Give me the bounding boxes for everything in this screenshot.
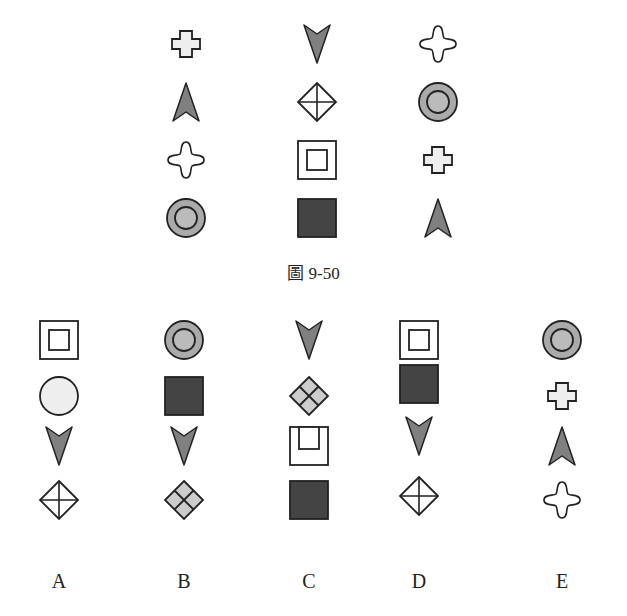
figure-col2-arrow-down-icon — [295, 22, 339, 66]
option-label-a[interactable]: A — [39, 570, 79, 593]
option-e-cross-icon — [540, 374, 584, 418]
option-c-arrow-down-icon — [287, 318, 331, 362]
figure-col3-four-point-star-icon — [416, 22, 460, 66]
option-label-c[interactable]: C — [289, 570, 329, 593]
option-e-four-point-star-icon — [540, 478, 584, 522]
figure-col1-arrow-up-icon — [164, 80, 208, 124]
option-label-d[interactable]: D — [399, 570, 439, 593]
option-d-arrow-down-icon — [397, 414, 441, 458]
option-d-dark-square-icon — [397, 362, 441, 406]
option-b-diamond-quad-icon — [162, 478, 206, 522]
option-a-circle-icon — [37, 374, 81, 418]
option-c-dark-square-icon — [287, 478, 331, 522]
option-d-diamond-cross-icon — [397, 474, 441, 518]
figure-col1-ring-icon — [164, 196, 208, 240]
option-a-nested-square-icon — [37, 318, 81, 362]
option-c-nested-square-offset-icon — [287, 424, 331, 468]
figure-col1-cross-icon — [164, 22, 208, 66]
option-c-diamond-quad-icon — [287, 374, 331, 418]
figure-col3-cross-icon — [416, 138, 460, 182]
option-a-diamond-cross-icon — [37, 478, 81, 522]
figure-col3-arrow-up-icon — [416, 196, 460, 240]
option-label-e[interactable]: E — [542, 570, 582, 593]
option-b-arrow-down-icon — [162, 424, 206, 468]
figure-caption: 圖 9-50 — [0, 259, 627, 284]
option-b-dark-square-icon — [162, 374, 206, 418]
option-a-arrow-down-icon — [37, 424, 81, 468]
option-d-nested-square-icon — [397, 318, 441, 362]
figure-col2-dark-square-icon — [295, 196, 339, 240]
figure-col3-ring-icon — [416, 80, 460, 124]
option-e-arrow-up-icon — [540, 424, 584, 468]
figure-col1-four-point-star-icon — [164, 138, 208, 182]
option-e-ring-icon — [540, 318, 584, 362]
figure-col2-nested-square-icon — [295, 138, 339, 182]
option-b-ring-icon — [162, 318, 206, 362]
figure-col2-diamond-cross-icon — [295, 80, 339, 124]
option-label-b[interactable]: B — [164, 570, 204, 593]
